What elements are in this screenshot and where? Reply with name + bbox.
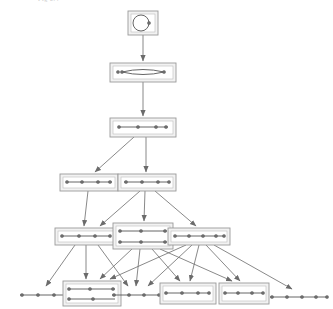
- graph-vertex: [117, 125, 120, 128]
- graph-node-n13[interactable]: [270, 295, 329, 298]
- node-graph-drawing: [270, 295, 329, 298]
- edge-n7-to-n13: [214, 245, 292, 289]
- graph-node-n4[interactable]: [118, 174, 176, 191]
- graph-vertex: [142, 293, 145, 296]
- graph-vertex: [136, 125, 139, 128]
- graph-vertex: [88, 287, 91, 290]
- graph-vertex: [80, 180, 83, 183]
- edge-n4-to-n6: [144, 191, 145, 221]
- edge-n2-to-n3: [95, 137, 134, 172]
- graph-node-n7[interactable]: [168, 228, 230, 245]
- graph-vertex: [201, 234, 204, 237]
- graph-vertex: [207, 291, 210, 294]
- graph-vertex: [20, 293, 23, 296]
- graph-vertex: [116, 70, 119, 73]
- node-inner-panel: [63, 177, 115, 188]
- node-inner-panel: [163, 286, 213, 301]
- graph-node-n5[interactable]: [55, 228, 117, 245]
- graph-vertex: [67, 297, 70, 300]
- edge-n6-to-n9: [100, 249, 132, 279]
- graph-vertex: [120, 70, 123, 73]
- graph-vertex: [163, 229, 166, 232]
- graph-vertex: [93, 234, 96, 237]
- graph-vertex: [65, 180, 68, 183]
- graph-vertex: [118, 229, 121, 232]
- graph-node-n0[interactable]: [128, 11, 158, 35]
- graph-vertex: [67, 287, 70, 290]
- graph-vertex: [127, 293, 130, 296]
- edge-n5-to-n8: [46, 245, 75, 286]
- graph-vertex: [112, 293, 115, 296]
- graph-vertex: [167, 180, 170, 183]
- graph-vertex: [164, 125, 167, 128]
- graph-vertex: [36, 293, 39, 296]
- graph-vertex: [250, 291, 253, 294]
- graph-vertex: [118, 240, 121, 243]
- edge-n4-to-n7: [155, 191, 196, 226]
- graph-vertex: [77, 234, 80, 237]
- node-inner-panel: [121, 177, 173, 188]
- graph-vertex: [261, 291, 264, 294]
- graph-vertex: [140, 180, 143, 183]
- figure-canvas: Fig 2.4: [0, 0, 333, 309]
- edge-n4-to-n5: [100, 191, 140, 226]
- graph-vertex: [163, 240, 166, 243]
- graph-vertex: [111, 287, 114, 290]
- graph-vertex: [164, 291, 167, 294]
- graph-vertex: [270, 295, 273, 298]
- graph-vertex: [124, 180, 127, 183]
- edge-n7-to-n10: [148, 245, 192, 286]
- node-inner-panel: [116, 226, 170, 246]
- graph-vertex: [285, 295, 288, 298]
- graph-vertex: [223, 291, 226, 294]
- graph-vertex: [96, 180, 99, 183]
- graph-node-n11[interactable]: [160, 283, 216, 304]
- graph-vertex: [108, 180, 111, 183]
- graph-vertex: [180, 291, 183, 294]
- graph-vertex: [52, 293, 55, 296]
- node-inner-panel: [58, 231, 114, 242]
- edge-n7-to-n9: [110, 245, 186, 279]
- graph-vertex: [139, 240, 142, 243]
- node-inner-panel: [131, 14, 155, 32]
- graph-vertex: [187, 234, 190, 237]
- graph-node-n6[interactable]: [113, 223, 173, 249]
- graph-node-n3[interactable]: [60, 174, 118, 191]
- graph-vertex: [147, 21, 150, 24]
- graph-vertex: [154, 125, 157, 128]
- graph-vertex: [108, 234, 111, 237]
- graph-vertex: [222, 234, 225, 237]
- graph-vertex: [196, 291, 199, 294]
- graph-vertex: [236, 291, 239, 294]
- node-inner-panel: [222, 286, 266, 301]
- graph-vertex: [156, 180, 159, 183]
- hierarchy-diagram: [0, 0, 333, 309]
- graph-node-n1[interactable]: [110, 63, 176, 82]
- graph-node-n12[interactable]: [219, 283, 269, 304]
- graph-vertex: [314, 295, 317, 298]
- graph-vertex: [325, 295, 328, 298]
- graph-vertex: [173, 234, 176, 237]
- graph-node-n9[interactable]: [63, 281, 121, 306]
- edge-n3-to-n5: [84, 191, 88, 226]
- graph-vertex: [139, 229, 142, 232]
- graph-vertex: [300, 295, 303, 298]
- node-inner-panel: [113, 121, 173, 134]
- graph-vertex: [162, 70, 165, 73]
- graph-vertex: [214, 234, 217, 237]
- node-inner-panel: [171, 231, 227, 242]
- edge-n5-to-n10: [98, 245, 128, 286]
- graph-vertex: [91, 297, 94, 300]
- graph-node-n2[interactable]: [110, 118, 176, 137]
- graph-vertex: [60, 234, 63, 237]
